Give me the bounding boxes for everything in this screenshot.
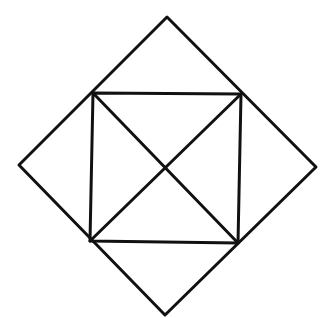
background: [0, 0, 335, 318]
geometry-diagram: [0, 0, 335, 318]
